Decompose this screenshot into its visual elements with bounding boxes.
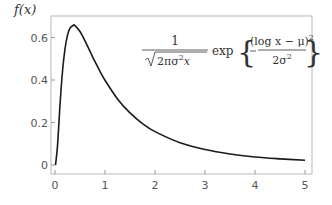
x-tick-label: 3	[202, 179, 209, 192]
y-tick-label: 0	[41, 159, 48, 172]
x-tick-label: 4	[252, 179, 259, 192]
formula-numerator: 1	[171, 34, 179, 48]
right-brace: }	[304, 34, 323, 69]
formula-annotation: 1 2πσ2x exp { (log x − μ)2 2σ2 }	[142, 33, 323, 69]
y-tick-label: 0.6	[31, 32, 49, 45]
x-tick-label: 5	[302, 179, 309, 192]
y-tick-label: 0.4	[31, 74, 49, 87]
lognormal-pdf-chart: f(x) 00.20.40.6 012345 1 2πσ2x exp { (lo…	[0, 0, 332, 205]
y-axis-label: f(x)	[13, 2, 36, 17]
formula-denominator: 2πσ2x	[157, 53, 191, 68]
formula-exp: exp	[212, 44, 234, 58]
x-tick-label: 2	[152, 179, 159, 192]
x-axis-ticks: 012345	[52, 170, 309, 192]
x-tick-label: 0	[52, 179, 59, 192]
inner-denominator: 2σ2	[272, 52, 292, 67]
y-tick-label: 0.2	[31, 117, 49, 130]
x-tick-label: 1	[102, 179, 109, 192]
